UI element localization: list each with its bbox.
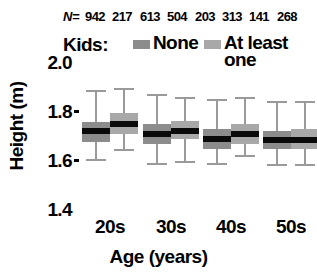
x-tick-label: 50s bbox=[265, 216, 317, 238]
x-axis: Age (years) 20s30s40s50s bbox=[0, 0, 317, 272]
boxplot-figure: N= 942217613504203313141268 Kids: None A… bbox=[0, 0, 317, 272]
x-tick-label: 40s bbox=[205, 216, 257, 238]
x-tick-label: 20s bbox=[84, 216, 136, 238]
x-tick-label: 30s bbox=[145, 216, 197, 238]
x-axis-title: Age (years) bbox=[0, 246, 317, 268]
